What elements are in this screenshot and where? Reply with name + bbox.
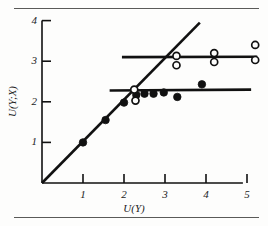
axes-group: [42, 21, 247, 183]
y-axis-tick-label: 3: [24, 55, 37, 66]
x-axis-tick-label: 5: [239, 189, 255, 200]
open-data-point: [211, 50, 218, 57]
filled-data-point: [150, 90, 158, 98]
y-axis-title: U(Y;X): [7, 66, 18, 138]
y-axis-tick-label: 1: [24, 136, 37, 147]
filled-data-point: [102, 116, 110, 124]
plot-canvas: [0, 0, 268, 226]
open-data-point: [132, 97, 139, 104]
y-axis-tick-label: 4: [24, 15, 37, 26]
x-axis-tick-label: 2: [116, 189, 132, 200]
filled-data-point: [141, 90, 149, 98]
y-axis-tick-label: 2: [24, 96, 37, 107]
x-axis-tick-label: 1: [75, 189, 91, 200]
open-data-point: [173, 52, 180, 59]
x-axis-title: U(Y): [0, 203, 268, 214]
open-data-point: [173, 62, 180, 69]
x-axis-tick-label: 4: [198, 189, 214, 200]
filled-data-point: [79, 139, 87, 147]
filled-data-point: [198, 81, 206, 89]
filled-data-point: [120, 99, 128, 107]
open-data-point: [252, 56, 259, 63]
reference-lines-group: [42, 23, 257, 183]
figure-root: 123412345 U(Y) U(Y;X): [0, 0, 268, 226]
open-data-point: [252, 41, 259, 48]
filled-data-point: [160, 89, 168, 97]
x-axis-tick-label: 3: [157, 189, 173, 200]
filled-data-point: [174, 93, 182, 101]
open-data-point: [211, 59, 218, 66]
open-data-point: [131, 86, 138, 93]
